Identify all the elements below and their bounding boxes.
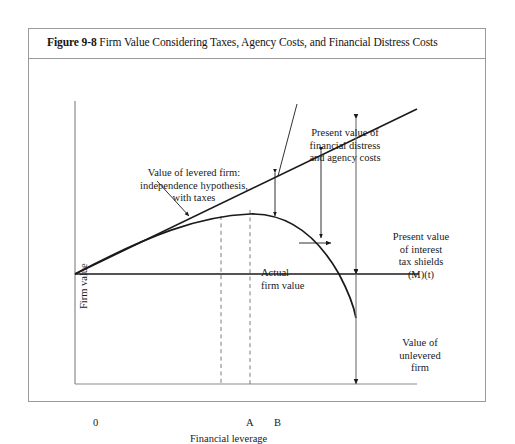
annotation-actual-firm-value: Actual firm value bbox=[261, 267, 327, 292]
annotation-distress-costs-line3: and agency costs bbox=[285, 152, 405, 165]
annotation-tax-shields-line1: Present value bbox=[375, 231, 467, 244]
annotation-distress-costs-line1: Present value of bbox=[285, 127, 405, 140]
x-axis-label: Financial leverage bbox=[190, 433, 267, 444]
annotation-distress-costs: Present value of financial distress and … bbox=[285, 127, 405, 165]
annotation-levered-firm-line2: independence hypothesis, bbox=[127, 180, 261, 193]
x-axis-tick-a: A bbox=[246, 417, 254, 428]
chart-plot-area: Value of levered firm: independence hypo… bbox=[29, 59, 485, 402]
annotation-tax-shields-line2: of interest bbox=[375, 244, 467, 257]
annotation-unlevered-firm-line2: unlevered bbox=[377, 350, 463, 363]
annotation-tax-shields-line3: tax shields bbox=[375, 256, 467, 269]
figure-caption-text: Firm Value Considering Taxes, Agency Cos… bbox=[99, 36, 437, 48]
actual-firm-value-curve bbox=[75, 214, 356, 318]
figure-caption: Figure 9-8 Firm Value Considering Taxes,… bbox=[47, 36, 438, 48]
annotation-tax-shields: Present value of interest tax shields (M… bbox=[375, 231, 467, 281]
annotation-distress-costs-line2: financial distress bbox=[285, 140, 405, 153]
annotation-levered-firm-line1: Value of levered firm: bbox=[127, 167, 261, 180]
x-axis-tick-0: 0 bbox=[93, 417, 98, 428]
annotation-unlevered-firm-line1: Value of bbox=[377, 337, 463, 350]
annotation-levered-firm-line3: with taxes bbox=[127, 192, 261, 205]
annotation-actual-firm-value-line2: firm value bbox=[261, 280, 327, 293]
annotation-tax-shields-line4: (M)(t) bbox=[375, 269, 467, 282]
annotation-unlevered-firm: Value of unlevered firm bbox=[377, 337, 463, 375]
x-axis-tick-b: B bbox=[274, 417, 281, 428]
annotation-actual-firm-value-line1: Actual bbox=[261, 267, 327, 280]
annotation-unlevered-firm-line3: firm bbox=[377, 362, 463, 375]
figure-number: Figure 9-8 bbox=[47, 36, 97, 48]
figure-header: Figure 9-8 Firm Value Considering Taxes,… bbox=[29, 29, 485, 59]
y-axis-label: Firm value bbox=[78, 263, 89, 309]
annotation-levered-firm: Value of levered firm: independence hypo… bbox=[127, 167, 261, 205]
figure-container: Figure 9-8 Firm Value Considering Taxes,… bbox=[28, 28, 486, 402]
